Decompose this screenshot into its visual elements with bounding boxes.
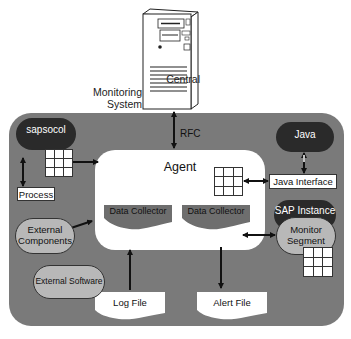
external-software-node: External Software (33, 265, 105, 299)
sap-instance-label: SAP Instance (275, 205, 335, 216)
agent-grid-icon (214, 167, 243, 196)
sapsocol-label: sapsocol (26, 124, 65, 135)
monitor-segment-line2: Segment (287, 236, 325, 247)
java-interface-box: Java Interface (269, 174, 337, 189)
external-components-node: External Components (15, 218, 75, 254)
sapsocol-grid-icon (45, 149, 73, 177)
data-collector-2: Data Collector (182, 206, 250, 216)
process-box: Process (17, 187, 55, 201)
log-file-label: Log File (95, 297, 165, 308)
external-components-line2: Components (18, 236, 72, 247)
sapsocol-node: sapsocol (16, 118, 76, 150)
java-label: Java (294, 129, 315, 140)
rfc-label: RFC (180, 128, 201, 139)
monitor-segment-grid-icon (303, 247, 333, 277)
java-node: Java (276, 122, 334, 152)
alert-file-label: Alert File (197, 297, 267, 308)
data-collector-1: Data Collector (104, 206, 172, 216)
